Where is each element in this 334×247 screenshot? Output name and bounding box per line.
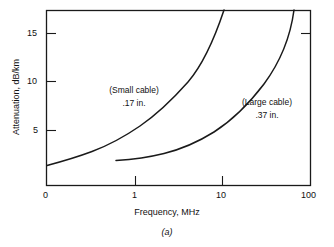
annotation-small-cable: (Small cable) .17 in. [97,84,171,110]
annotation-large-cable: (Large cable) .37 in. [230,96,304,122]
annotation-small-cable-line1: (Small cable) [97,84,171,97]
annotation-large-cable-line2: .37 in. [230,109,304,122]
ytick-label-10: 10 [27,76,37,86]
y-axis-ticks [47,34,57,131]
figure-container: 15 10 5 0 1 10 100 Attenuation, dB/km Fr… [0,0,334,247]
xtick-label-1: 1 [132,190,137,200]
y-axis-title: Attenuation, dB/km [11,47,21,147]
ytick-label-5: 5 [33,125,38,135]
xtick-label-100: 100 [301,190,316,200]
xtick-label-10: 10 [216,190,226,200]
x-axis-ticks [136,176,223,186]
annotation-large-cable-line1: (Large cable) [230,96,304,109]
annotation-small-cable-line2: .17 in. [97,97,171,110]
xtick-label-0: 0 [43,190,48,200]
ytick-label-15: 15 [27,28,37,38]
x-axis-title: Frequency, MHz [0,207,334,217]
figure-caption: (a) [0,227,334,237]
